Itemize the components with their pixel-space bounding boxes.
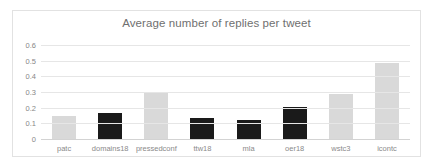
axis-line-zero: 0 [41,139,410,140]
gridline: 0.1 [41,123,410,124]
x-axis-category-label: wstc3 [331,144,350,153]
chart-title: Average number of replies per tweet [13,17,420,29]
x-axis-category-label: icontc [377,144,397,153]
bar[interactable] [52,116,76,139]
x-axis-category-label: ttw18 [193,144,211,153]
x-axis-category-label: patc [57,144,71,153]
chart-frame: Average number of replies per tweet patc… [12,10,421,157]
y-axis-tick-label: 0.3 [26,88,36,97]
gridline: 0.6 [41,45,410,46]
gridline: 0.5 [41,61,410,62]
gridline: 0.2 [41,108,410,109]
bar[interactable] [144,92,168,139]
y-axis-tick-label: 0.5 [26,56,36,65]
y-axis-tick-label: 0.2 [26,103,36,112]
x-axis-category-label: domains18 [92,144,129,153]
gridline: 0.3 [41,92,410,93]
plot-area: patcdomains18pressedconfttw18mlaoer18wst… [41,45,410,139]
y-axis-tick-label: 0.4 [26,72,36,81]
x-axis-category-label: oer18 [285,144,304,153]
bar[interactable] [98,113,122,139]
y-axis-tick-label: 0.6 [26,41,36,50]
gridline: 0.4 [41,76,410,77]
y-axis-tick-label: 0 [32,135,36,144]
y-axis-tick-label: 0.1 [26,119,36,128]
bar[interactable] [190,118,214,139]
x-axis-category-label: mla [243,144,255,153]
bar[interactable] [329,94,353,139]
x-axis-category-label: pressedconf [136,144,177,153]
bar[interactable] [375,63,399,139]
